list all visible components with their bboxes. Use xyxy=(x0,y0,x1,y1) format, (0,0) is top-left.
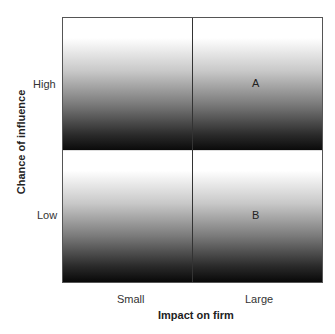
x-axis-title: Impact on firm xyxy=(158,309,234,321)
quadrant-low-small xyxy=(63,151,193,282)
y-axis-title: Chance of influence xyxy=(15,82,27,202)
x-tick-small: Small xyxy=(117,293,145,305)
quadrant-high-large: A xyxy=(193,18,322,151)
quadrant-label-a: A xyxy=(252,77,259,89)
vertical-divider xyxy=(192,18,193,282)
quadrant-label-b: B xyxy=(252,209,259,221)
matrix-grid: A B xyxy=(62,17,323,283)
y-tick-low: Low xyxy=(37,209,57,221)
quadrant-high-small xyxy=(63,18,193,151)
y-tick-high: High xyxy=(33,78,56,90)
quadrant-low-large: B xyxy=(193,151,322,282)
x-tick-large: Large xyxy=(245,293,273,305)
